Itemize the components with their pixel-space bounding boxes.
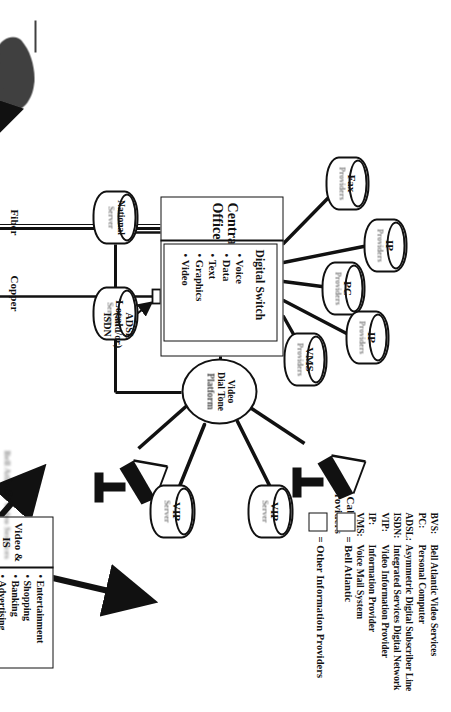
cylinder-ip-2: IPProviders <box>345 310 389 364</box>
abbr-row-isdn: ISDN:Integrated Services Digital Network <box>390 512 402 708</box>
app-bullet-entertainment: • Entertainment <box>32 574 45 666</box>
cylinder-local-server: LocalServer <box>92 286 138 340</box>
legend-swatch-other-ip <box>308 512 327 531</box>
switch-bullet-graphics: • Graphics <box>191 253 204 337</box>
legend-label-bell-atlantic: = Bell Atlantic <box>342 536 353 686</box>
abbr-row-pc: PC:Personal Computer <box>414 512 426 708</box>
cylinder-sublabel: Server <box>106 206 114 229</box>
app-bullet-shopping: • Shopping <box>20 574 33 666</box>
cylinder-label: IP <box>366 332 377 343</box>
platform-lower-dish-link <box>138 402 190 448</box>
figure-caption: Bell Atlantic Video Services <box>1 450 11 710</box>
abbr-row-ip: IP:Information Provider <box>365 512 377 708</box>
cylinder-vip-2: VIPServer <box>149 484 195 538</box>
cylinder-sublabel: Server <box>261 500 269 523</box>
abbr-row-adsl: ADSL:Asymmetric Digital Subscriber Line <box>402 512 414 708</box>
cylinder-sublabel: Providers <box>334 271 342 304</box>
digital-switch-title: Digital Switch <box>253 249 265 339</box>
cylinder-vms: VMSProviders <box>283 332 327 386</box>
cylinder-national-server: NationalServer <box>92 190 138 244</box>
cylinder-label: PC <box>342 281 353 296</box>
platform-cable-dish-link <box>248 406 304 443</box>
switch-bullet-data: • Data <box>218 253 231 337</box>
vdt-line-3: Platform <box>204 373 214 409</box>
abbr-row-vip: VIP:Video Information Provider <box>377 512 389 708</box>
central-office-title: Central Office <box>209 202 239 236</box>
cylinder-pc: PCProviders <box>321 261 365 315</box>
vdt-line-2: Dial Tone <box>214 372 224 411</box>
cylinder-sublabel: Server <box>163 500 171 523</box>
rotated-figure-wrapper: Central Office Digital Switch • Voice • … <box>0 0 451 712</box>
cylinder-label: VIP <box>269 502 280 521</box>
video-dial-tone-platform: Video Dial Tone Platform <box>181 358 257 424</box>
cylinder-label: VIP <box>171 502 182 521</box>
abbreviation-key: BVS:Bell Atlantic Video Services PC:Pers… <box>353 512 439 708</box>
central-office-divider <box>160 239 283 241</box>
diagram-canvas: Central Office Digital Switch • Voice • … <box>0 0 451 712</box>
abbr-row-vms: VMS:Voice Mail System <box>353 512 365 708</box>
cylinder-sublabel: Providers <box>358 320 366 353</box>
cylinder-sublabel: Server <box>106 302 114 325</box>
copper-label: Copper <box>7 262 19 324</box>
cylinder-sublabel: Providers <box>296 342 304 375</box>
vehicle-art-1 <box>0 20 35 112</box>
cylinder-fax: FaxProviders <box>325 156 369 210</box>
adsl-tap-top <box>152 289 160 303</box>
switch-bullet-text: • Text <box>205 253 218 337</box>
abbr-row-bvs: BVS:Bell Atlantic Video Services <box>427 512 439 708</box>
cylinder-vip-1: VIPServer <box>247 484 293 538</box>
cylinder-sublabel: Providers <box>376 228 384 261</box>
switch-bullet-voice: • Voice <box>232 253 245 337</box>
cylinder-ip-1: IPProviders <box>363 218 407 272</box>
cylinder-sublabel: Providers <box>338 166 346 199</box>
switch-bullet-video: • Video <box>178 253 191 337</box>
cylinder-label: National <box>114 200 124 235</box>
platform-vip-links <box>179 421 270 487</box>
cylinder-label: Local <box>114 300 125 326</box>
cylinder-label: IP <box>384 240 395 251</box>
cylinder-label: Fax <box>346 174 357 192</box>
digital-switch-bullets: • Voice • Data • Text • Graphics • Video <box>178 253 245 337</box>
cylinder-label: VMS <box>304 347 315 371</box>
figure-page: Central Office Digital Switch • Voice • … <box>0 0 451 712</box>
fiber-label: Fiber <box>7 196 19 248</box>
legend-label-other-ip: = Other Information Providers <box>314 536 325 706</box>
